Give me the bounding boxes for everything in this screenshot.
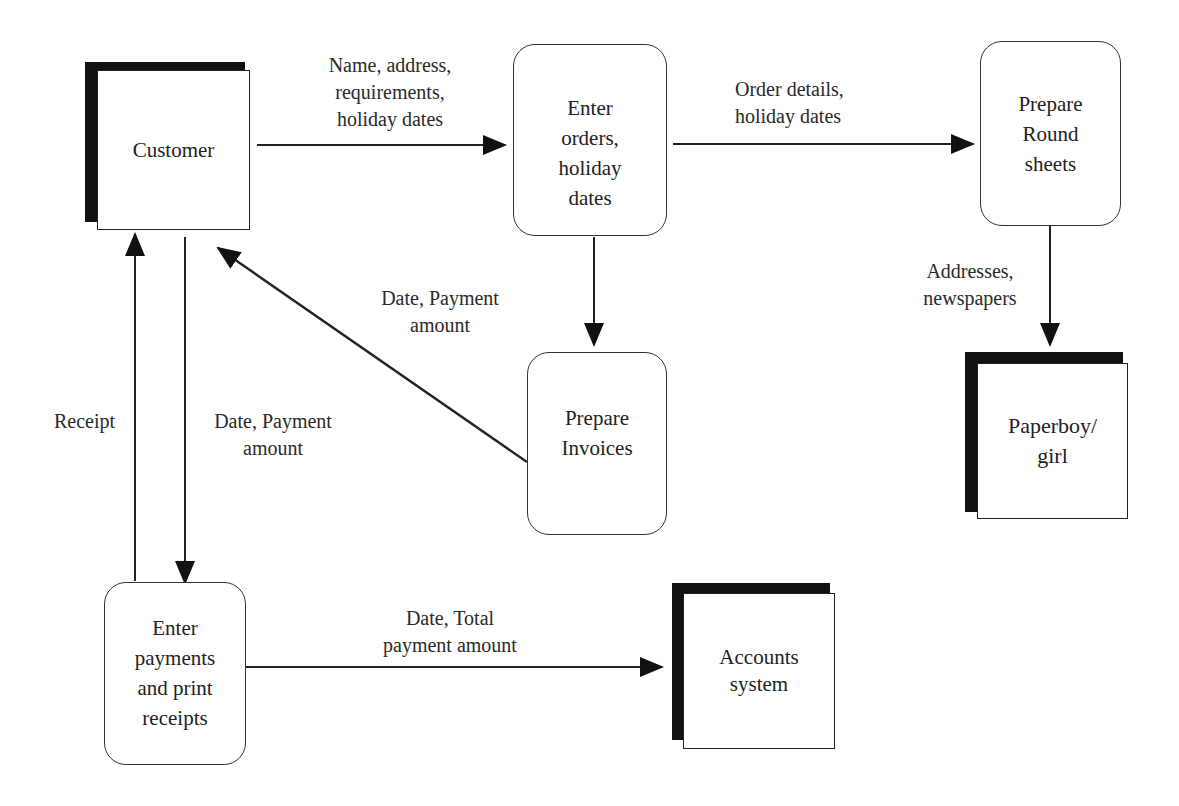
process-prepare-round: Prepare Round sheets [980,41,1121,226]
entity-accounts: Accounts system [672,583,835,749]
process-prepare-round-label: Prepare Round sheets [1018,89,1082,225]
process-enter-orders-label: Enter orders, holiday dates [559,93,622,235]
entity-paperboy-label: Paperboy/ girl [977,363,1128,519]
flow-label-payments-to-accounts: Date, Total payment amount [350,605,550,659]
process-enter-payments: Enter payments and print receipts [104,582,246,765]
flow-label-payments-to-customer: Receipt [54,408,134,435]
flow-label-customer-to-orders: Name, address, requirements, holiday dat… [290,52,490,133]
flow-label-invoices-to-customer: Date, Payment amount [350,285,530,339]
flow-label-customer-to-payments: Date, Payment amount [192,408,354,462]
flow-label-orders-to-round: Order details, holiday dates [735,76,895,130]
entity-customer-label: Customer [97,70,250,230]
process-prepare-invoices: Prepare Invoices [527,352,667,535]
entity-accounts-label: Accounts system [683,593,835,749]
process-enter-orders: Enter orders, holiday dates [513,44,667,236]
entity-paperboy: Paperboy/ girl [965,352,1128,519]
process-enter-payments-label: Enter payments and print receipts [135,613,215,764]
process-prepare-invoices-label: Prepare Invoices [561,403,632,534]
flow-label-round-to-paperboy: Addresses, newspapers [900,258,1040,312]
entity-customer: Customer [85,62,250,230]
